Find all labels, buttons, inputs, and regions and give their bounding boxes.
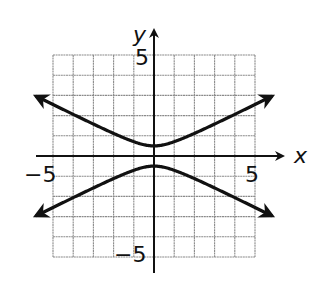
hyperbola-graph: y 5 x −5 5 −5 [0,0,324,296]
y-axis-label: y [132,22,147,47]
x-min-label: −5 [24,162,56,187]
y-min-label: −5 [114,242,146,267]
x-axis-label: x [293,143,308,168]
y-max-label: 5 [135,45,149,70]
x-max-label: 5 [245,162,259,187]
